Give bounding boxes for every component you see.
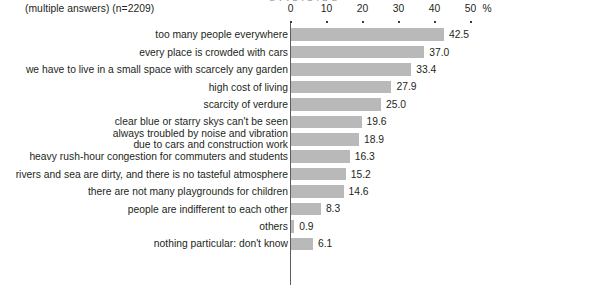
bar-category-label: people are indifferent to each other [0, 204, 288, 216]
bar-value-label: 16.3 [355, 151, 375, 162]
bar [291, 116, 362, 129]
bar-value-label: 8.3 [326, 203, 340, 214]
bar-row: we have to live in a small space with sc… [0, 61, 606, 78]
x-axis-scale: 01020304050% [0, 0, 606, 26]
bar [291, 81, 391, 94]
bar-category-label: heavy rush-hour congestion for commuters… [0, 151, 288, 163]
bar-value-label: 27.9 [396, 81, 416, 92]
bar-row: scarcity of verdure25.0 [0, 96, 606, 113]
axis-tick-mark [470, 21, 472, 23]
bar-category-label: we have to live in a small space with sc… [0, 64, 288, 76]
bar-value-label: 37.0 [429, 47, 449, 58]
bar-value-label: 15.2 [351, 169, 371, 180]
bar-row: nothing particular: don't know6.1 [0, 235, 606, 252]
axis-tick-label: 40 [429, 3, 440, 14]
bar [291, 98, 381, 111]
bar [291, 203, 321, 216]
bar-value-label: 14.6 [349, 186, 369, 197]
bar [291, 46, 424, 59]
bar-row: people are indifferent to each other8.3 [0, 200, 606, 217]
bar [291, 168, 346, 181]
bar-row: rivers and sea are dirty, and there is n… [0, 166, 606, 183]
bar-row: always troubled by noise and vibrationdu… [0, 131, 606, 148]
bar-rows-container: too many people everywhere42.5every plac… [0, 26, 606, 253]
bar-row: high cost of living27.9 [0, 78, 606, 95]
bar-value-label: 0.9 [299, 221, 313, 232]
bar [291, 63, 411, 76]
bar-row: there are not many playgrounds for child… [0, 183, 606, 200]
bar-category-label: others [0, 221, 288, 233]
axis-tick-mark [398, 21, 400, 23]
bar [291, 28, 444, 41]
bar-row: others0.9 [0, 218, 606, 235]
bar-category-label: every place is crowded with cars [0, 47, 288, 59]
bar-row: every place is crowded with cars37.0 [0, 43, 606, 60]
bar-category-label: too many people everywhere [0, 29, 288, 41]
bar-value-label: 33.4 [416, 64, 436, 75]
axis-tick-label: 50 [465, 3, 476, 14]
bar-category-label: there are not many playgrounds for child… [0, 186, 288, 198]
bar [291, 150, 350, 163]
bar-value-label: 6.1 [318, 238, 332, 249]
axis-tick-mark [326, 21, 328, 23]
bar [291, 220, 294, 233]
bar [291, 185, 344, 198]
axis-tick-label: 30 [393, 3, 404, 14]
axis-tick-mark [362, 21, 364, 23]
bar-category-label: clear blue or starry skys can't be seen [0, 116, 288, 128]
axis-unit-label: % [483, 3, 492, 14]
bar [291, 133, 359, 146]
bar-value-label: 19.6 [367, 116, 387, 127]
axis-tick-mark [434, 21, 436, 23]
bar-category-label: nothing particular: don't know [0, 238, 288, 250]
axis-tick-label: 0 [288, 3, 294, 14]
bar-category-label: scarcity of verdure [0, 99, 288, 111]
axis-tick-label: 20 [357, 3, 368, 14]
bar [291, 238, 313, 251]
bar-row: too many people everywhere42.5 [0, 26, 606, 43]
bar-category-label: rivers and sea are dirty, and there is n… [0, 169, 288, 181]
bar-value-label: 18.9 [364, 134, 384, 145]
axis-tick-label: 10 [321, 3, 332, 14]
bar-value-label: 25.0 [386, 99, 406, 110]
bar-row: heavy rush-hour congestion for commuters… [0, 148, 606, 165]
bar-category-label: high cost of living [0, 82, 288, 94]
bar-value-label: 42.5 [449, 29, 469, 40]
